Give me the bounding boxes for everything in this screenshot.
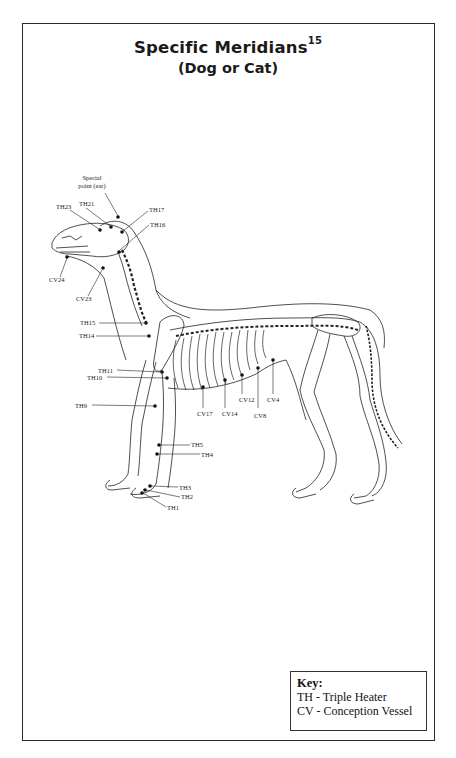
label-TH21: TH21 (79, 200, 94, 207)
label-TH4: TH4 (201, 451, 214, 458)
label-CV14: CV14 (222, 410, 238, 417)
dog-outline (52, 221, 402, 504)
label-CV12: CV12 (239, 396, 255, 403)
legend-row-th: TH - Triple Heater (297, 690, 420, 704)
legend-title: Key: (297, 676, 420, 690)
legend-row-cv: CV - Conception Vessel (297, 704, 420, 718)
label-special-point-line2: point (ear) (78, 182, 105, 190)
legend-key: Key: TH - Triple Heater CV - Conception … (290, 671, 427, 731)
label-CV17: CV17 (197, 410, 213, 417)
label-CV8: CV8 (254, 412, 266, 419)
label-TH16: TH16 (150, 221, 166, 228)
label-TH10: TH10 (87, 374, 102, 381)
point-TH16 (117, 250, 121, 254)
label-special-point-line1: Special (82, 174, 101, 181)
label-TH14: TH14 (79, 332, 95, 339)
acupoints (65, 215, 275, 495)
point-CV23 (101, 266, 105, 270)
label-TH5: TH5 (191, 441, 203, 448)
label-TH11: TH11 (98, 367, 113, 374)
label-TH23: TH23 (56, 203, 71, 210)
label-TH2: TH2 (181, 493, 193, 500)
label-CV4: CV4 (267, 396, 280, 403)
dog-skeleton-diagram: Special point (ear) TH23 TH21 TH17 TH16 … (0, 0, 456, 758)
label-TH3: TH3 (179, 484, 191, 491)
label-TH17: TH17 (149, 206, 165, 213)
label-TH9: TH9 (75, 402, 87, 409)
label-TH1: TH1 (167, 504, 179, 511)
label-CV23: CV23 (76, 295, 92, 302)
label-CV24: CV24 (49, 276, 65, 283)
leader-lines (60, 193, 273, 507)
label-TH15: TH15 (80, 319, 95, 326)
